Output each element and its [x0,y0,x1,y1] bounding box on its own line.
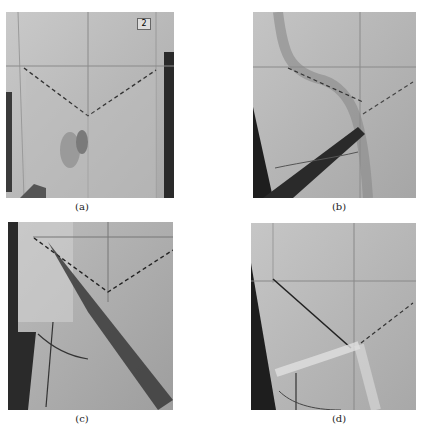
photo-panel-a: 2 [6,12,174,198]
step-badge: 2 [137,18,151,30]
photo-panel-c [8,222,173,410]
dress-form-photo-d [251,223,416,410]
caption-d: (d) [319,413,359,424]
caption-b: (b) [319,201,359,212]
caption-c: (c) [62,413,102,424]
caption-a: (a) [62,201,102,212]
photo-panel-b [253,12,416,198]
dress-form-photo-b [253,12,416,198]
photo-panel-d [251,223,416,410]
dress-form-photo-a [6,12,174,198]
dress-form-photo-c [8,222,173,410]
